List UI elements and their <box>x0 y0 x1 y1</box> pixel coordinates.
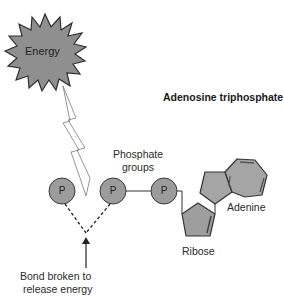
energy-label: Energy <box>25 45 60 58</box>
arrow-up-icon <box>82 237 90 268</box>
phosphate-1-label: P <box>49 178 75 204</box>
broken-bond-dashed-left <box>65 204 86 233</box>
broken-bond-dashed-right <box>86 204 110 233</box>
phosphate-3-label: P <box>151 178 177 204</box>
phosphate-groups-label-line2: groups <box>106 161 170 174</box>
phosphate-2-label: P <box>100 178 126 204</box>
bond-broken-label-line1: Bond broken to <box>16 270 156 283</box>
adenine-label: Adenine <box>227 201 266 214</box>
phosphate-groups-label-line1: Phosphate <box>106 148 170 161</box>
phosphate-groups-label: Phosphate groups <box>106 148 170 174</box>
bond-broken-label: Bond broken to release energy <box>16 270 156 296</box>
ribose-ring <box>182 203 215 236</box>
ribose-label: Ribose <box>182 245 215 258</box>
diagram-title: Adenosine triphosphate <box>163 91 283 103</box>
bond-broken-label-line2: release energy <box>16 283 156 296</box>
phosphate-ribose-bond <box>177 191 184 214</box>
adenine-rings <box>200 159 267 204</box>
